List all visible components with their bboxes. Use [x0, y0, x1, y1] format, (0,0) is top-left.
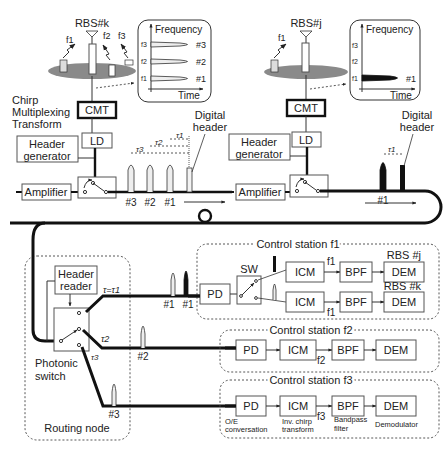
zoom-pointer-arrow	[96, 83, 134, 88]
pd-label: PD	[243, 344, 258, 356]
icm-label: ICM	[288, 400, 308, 412]
bpf-caption: filter	[334, 424, 349, 433]
tau-label: τ1	[388, 145, 395, 154]
plot-title: Frequency	[155, 24, 202, 35]
pulse-1	[380, 163, 386, 192]
mobile-terminal-icon	[60, 60, 67, 72]
digital-header-pulse	[400, 165, 405, 191]
connector	[258, 270, 286, 280]
callout-line	[404, 134, 413, 166]
bpf-label: BPF	[337, 400, 359, 412]
tau-label: τ3	[136, 145, 144, 154]
freq-label: f2	[103, 31, 111, 41]
bpf-label: BPF	[345, 266, 367, 278]
freq-label: f1	[278, 33, 286, 43]
sw-label: SW	[240, 263, 258, 275]
switch-terminal	[77, 343, 80, 346]
zoom-pointer-arrow	[310, 84, 346, 89]
header-generator-label: Header	[29, 138, 65, 150]
header-reader-label: reader	[60, 280, 92, 292]
fiber-loop	[10, 191, 441, 223]
mobile-terminal-icon	[271, 60, 278, 72]
mobile-terminal-icon	[109, 65, 115, 76]
dem-label: DEM	[392, 266, 416, 278]
radio-link-icon	[274, 44, 286, 58]
amplifier-label: Amplifier	[239, 186, 282, 198]
switch-terminal	[83, 190, 86, 193]
radio-link-icon	[121, 44, 128, 58]
pulse-label: #1	[182, 299, 194, 310]
tau-label: τ2	[101, 334, 109, 344]
pulse-label: #2	[137, 351, 149, 362]
routing-node-label: Routing node	[44, 422, 109, 434]
radio-link-icon	[103, 45, 110, 60]
digital-header-label: header	[400, 121, 435, 133]
plot-xlabel: Time	[390, 90, 412, 101]
tau-label: τ=τ1	[103, 285, 120, 295]
photonic-switch-label: switch	[35, 370, 66, 382]
bpf-caption: Bandpass	[334, 415, 368, 424]
series-label: #2	[196, 57, 206, 67]
header-generator-label: Header	[241, 136, 277, 148]
bpf-label: BPF	[337, 344, 359, 356]
control-station-f2: Control station f2 PD ICM f2 BPF DEM	[220, 324, 439, 372]
mobile-terminal-icon	[125, 60, 133, 65]
pd-caption: conversation	[225, 425, 268, 434]
freq-label: f3	[118, 31, 126, 41]
y-tick-label: f1	[352, 75, 358, 82]
switch-terminal	[295, 189, 298, 192]
header-generator-label: generator	[23, 150, 70, 162]
photonic-switch-label: Photonic	[35, 357, 78, 369]
ld-label: LD	[299, 134, 313, 146]
control-station-f3: Control station f3 PD ICM f3 BPF DEM O/E…	[220, 374, 439, 438]
pulse-1-header	[184, 271, 188, 296]
pulse-2	[141, 326, 145, 348]
y-tick-label: f2	[352, 58, 358, 65]
switch-terminal	[240, 295, 243, 298]
y-tick-label: f3	[352, 42, 358, 49]
unused	[0, 0, 10, 233]
ld-label: LD	[90, 135, 104, 147]
callout-line	[192, 134, 205, 172]
pulse-3	[128, 165, 134, 192]
header-reader-label: Header	[58, 268, 94, 280]
switch-terminal	[77, 327, 80, 330]
pulse-label: #1	[164, 197, 176, 208]
station-title: Control station f2	[269, 324, 352, 336]
switch-terminal	[316, 189, 319, 192]
fiber-delay-coil-icon	[199, 210, 211, 222]
pulse-label: #2	[144, 197, 156, 208]
rbs-k-frequency-plot: Frequency Time f3 f2 f1 #3 #2 #1	[138, 20, 211, 102]
connector	[258, 298, 286, 302]
freq-label: f2	[317, 355, 326, 366]
tau-label: τ3	[91, 353, 99, 362]
chirp-multiplexing-network-diagram: RBS#k f1 f2 f3 Frequency Time f3 f2 f1 #…	[0, 0, 447, 454]
pulse-1	[167, 165, 173, 192]
rbs-label: RBS #j	[387, 249, 421, 261]
series-label: #1	[196, 74, 206, 84]
digital-header-label: header	[193, 121, 228, 133]
tau-label: τ1	[176, 131, 183, 140]
bpf-label: BPF	[345, 296, 367, 308]
rbs-label: RBS #k	[384, 280, 422, 292]
rbs-k-label: RBS#k	[75, 17, 110, 29]
switch-terminal	[104, 190, 107, 193]
cmt-label: CMT	[294, 102, 318, 114]
series-label: #1	[406, 74, 416, 84]
radio-link-icon	[63, 44, 75, 58]
freq-label: f1	[66, 35, 74, 45]
pulse-label: #3	[125, 197, 137, 208]
y-tick-label: f2	[141, 58, 147, 65]
amplifier-label: Amplifier	[25, 186, 68, 198]
dem-label: DEM	[384, 344, 408, 356]
antenna-icon	[300, 31, 312, 37]
icm-label: ICM	[295, 296, 315, 308]
switch-terminal	[77, 311, 80, 314]
rbs-j-frequency-plot: Frequency Time f3 f2 f1 #1	[350, 20, 420, 101]
tau-label: τ2	[155, 138, 163, 147]
icm-label: ICM	[295, 266, 315, 278]
y-tick-label: f1	[141, 75, 147, 82]
pulse-label: #1	[163, 299, 175, 310]
cmt-label: CMT	[85, 104, 109, 116]
optical-switch-box	[290, 175, 328, 197]
